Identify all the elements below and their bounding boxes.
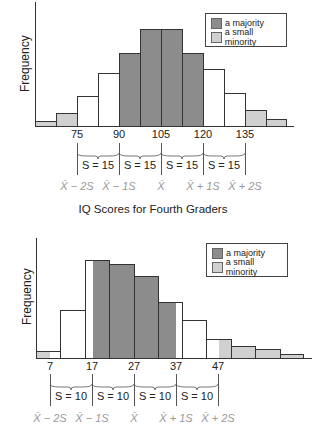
- bottom-sd-label: S = 10: [97, 390, 129, 402]
- bottom-tick: 7: [47, 360, 53, 372]
- top-sd-label: S = 15: [208, 159, 240, 171]
- top-bar: [161, 29, 183, 127]
- bottom-mean-label: X̄ + 2S: [201, 412, 234, 424]
- top-tick: 135: [236, 128, 254, 140]
- minority-swatch-icon: [212, 262, 223, 273]
- bottom-legend: a majority a small minority: [206, 243, 288, 277]
- minority-swatch-icon: [211, 32, 222, 43]
- top-bar: [77, 96, 99, 127]
- bottom-bar: [60, 310, 86, 359]
- top-sd-label: S = 15: [82, 159, 114, 171]
- bottom-mean-label: X̄: [130, 412, 137, 424]
- top-bar: [245, 110, 267, 127]
- bottom-tick: 47: [212, 360, 224, 372]
- top-tick: 90: [113, 128, 125, 140]
- top-bar: [119, 53, 141, 127]
- bottom-bar: [36, 351, 61, 359]
- majority-swatch-icon: [211, 18, 222, 29]
- bottom-bar: [182, 320, 207, 359]
- majority-swatch-icon: [212, 248, 223, 259]
- bottom-bar: [134, 276, 159, 359]
- top-mean-label: X̄ + 2S: [228, 180, 261, 192]
- bottom-mean-label: X̄ − 2S: [33, 412, 66, 424]
- bottom-y-axis-label: Frequency: [20, 268, 34, 325]
- top-chart-title: IQ Scores for Fourth Graders: [79, 203, 228, 215]
- bottom-tick: 17: [86, 360, 98, 372]
- bottom-sd-label: S = 10: [181, 390, 213, 402]
- bottom-bar: [280, 354, 304, 359]
- top-tick: 105: [152, 128, 170, 140]
- bottom-mean-label: X̄ + 1S: [159, 412, 192, 424]
- bottom-sd-label: S = 10: [139, 390, 171, 402]
- bottom-bar: [231, 346, 256, 359]
- bottom-tick: 37: [170, 360, 182, 372]
- top-y-axis-label: Frequency: [18, 35, 32, 92]
- top-bar: [182, 53, 204, 127]
- top-bar: [140, 29, 162, 127]
- top-y-axis: [35, 2, 36, 127]
- top-bar: [203, 69, 225, 127]
- bottom-tick: 27: [128, 360, 140, 372]
- bottom-bar: [85, 260, 110, 359]
- legend-item-minority: a small minority: [206, 30, 286, 44]
- top-sd-label: S = 15: [124, 159, 156, 171]
- top-mean-label: X̄ − 2S: [60, 180, 93, 192]
- bottom-bar: [255, 349, 281, 359]
- top-bar: [266, 119, 287, 127]
- bottom-bar: [206, 339, 232, 359]
- bottom-bar: [158, 302, 183, 359]
- top-bar: [224, 93, 246, 127]
- top-bar: [98, 73, 120, 127]
- bottom-mean-label: X̄ − 1S: [75, 412, 108, 424]
- top-bar: [56, 113, 78, 127]
- top-mean-label: X̄: [157, 180, 164, 192]
- top-mean-label: X̄ − 1S: [102, 180, 135, 192]
- top-legend: a majority a small minority: [205, 13, 287, 47]
- bottom-bar: [109, 264, 135, 359]
- bottom-y-axis: [36, 238, 37, 359]
- top-tick: 75: [71, 128, 83, 140]
- top-tick: 120: [194, 128, 212, 140]
- top-mean-label: X̄ + 1S: [186, 180, 219, 192]
- legend-item-minority: a small minority: [207, 260, 287, 274]
- top-sd-label: S = 15: [166, 159, 198, 171]
- bottom-sd-label: S = 10: [55, 390, 87, 402]
- top-bar: [35, 121, 57, 127]
